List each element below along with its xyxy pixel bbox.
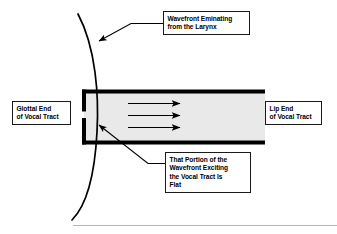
callout-flat-wavefront: That Portion of the Wavefront Exciting t… — [165, 152, 251, 193]
callout-glottal-end: Glottal End of Vocal Tract — [12, 101, 71, 125]
glottal-wall-upper — [82, 90, 86, 112]
callout-wavefront-origin: Wavefront Eminating from the Larynx — [163, 11, 250, 35]
tube-top-wall — [82, 90, 265, 94]
tube-bottom-wall — [82, 141, 265, 145]
leader-wavefront-origin — [99, 24, 163, 42]
vocal-tract-wavefront-figure: Wavefront Eminating from the Larynx Glot… — [0, 0, 337, 234]
glottal-wall-lower — [82, 118, 86, 145]
callout-lip-end: Lip End of Vocal Tract — [265, 101, 322, 125]
